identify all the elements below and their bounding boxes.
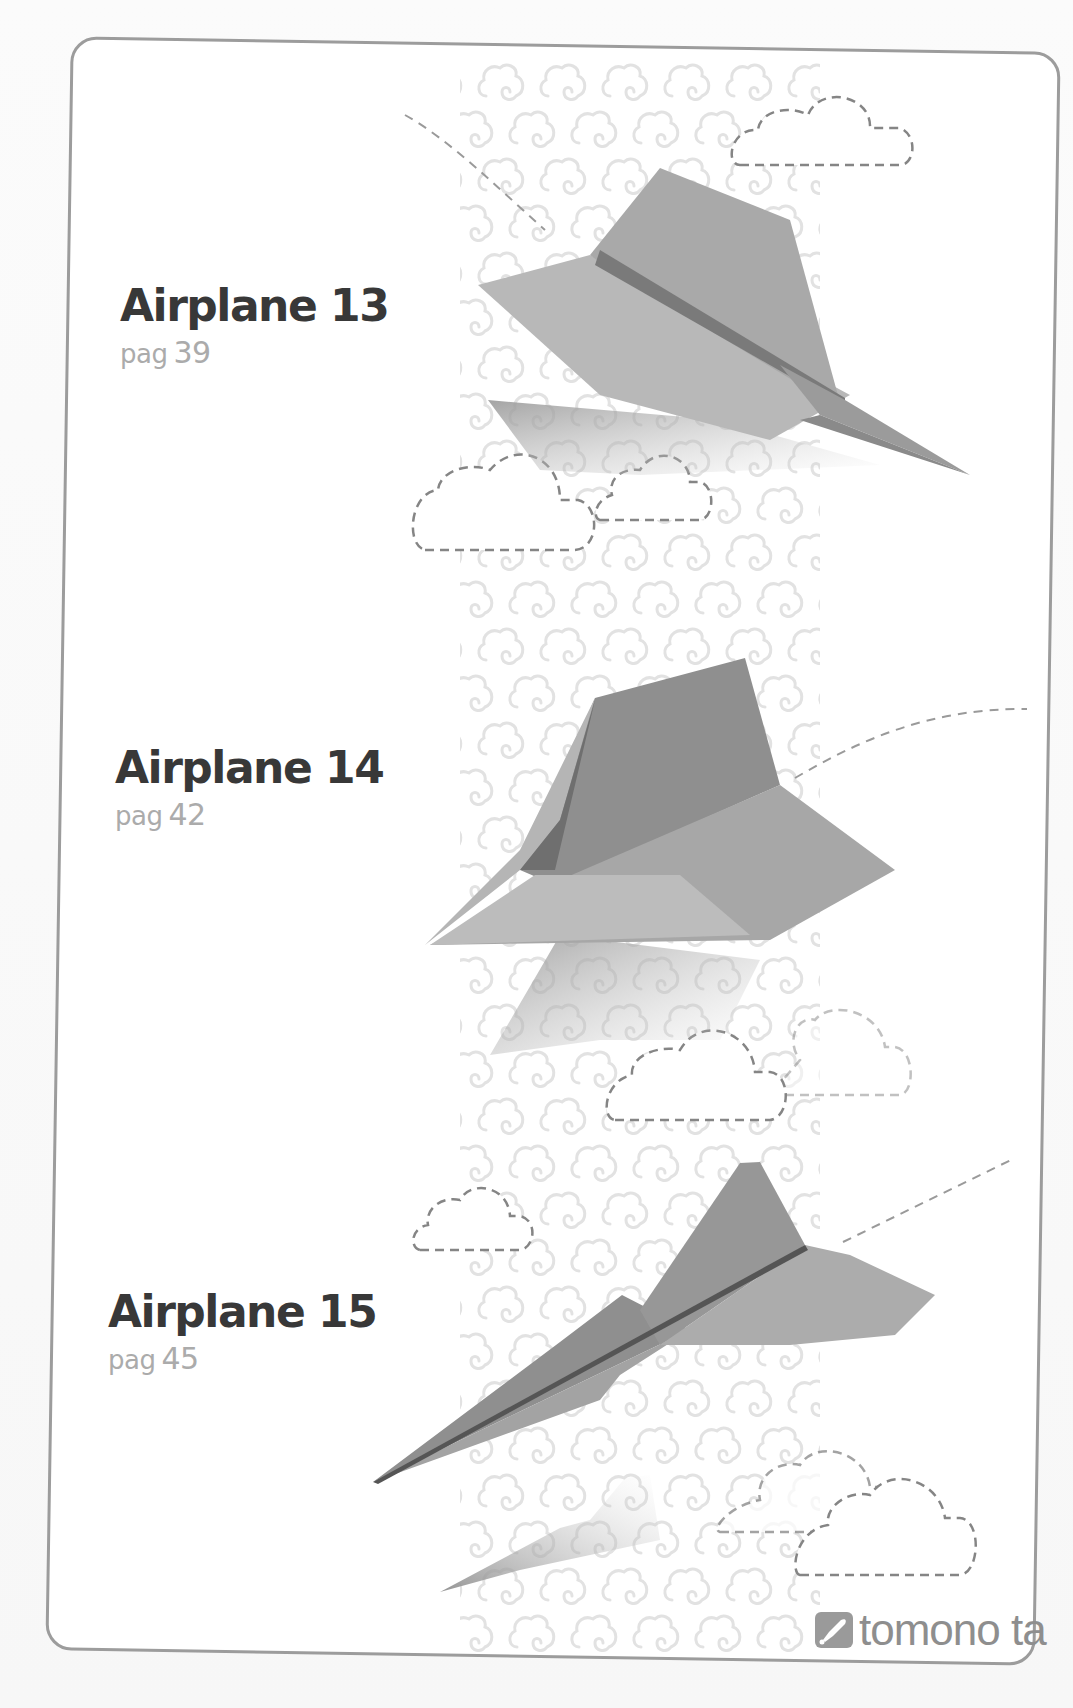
entry-page-ref: pag45: [108, 1344, 376, 1374]
entry-page-ref: pag42: [115, 800, 383, 830]
entry-title: Airplane 13: [120, 284, 388, 328]
brand-name: tomono ta: [859, 1608, 1046, 1652]
page-number: 39: [173, 335, 210, 370]
trail-airplane-14: [795, 709, 1027, 778]
rocket-logo-icon: [815, 1612, 853, 1648]
illustration-layer: [0, 0, 1073, 1708]
entry-airplane-15: Airplane 15 pag45: [108, 1290, 376, 1374]
entry-airplane-14: Airplane 14 pag42: [115, 746, 383, 830]
page-prefix: pag: [115, 801, 162, 831]
entry-title: Airplane 14: [115, 746, 383, 790]
brand-logo: tomono ta: [815, 1608, 1046, 1652]
page-prefix: pag: [108, 1345, 155, 1375]
trail-airplane-15: [843, 1158, 1015, 1242]
catalog-page: Airplane 13 pag39 Airplane 14 pag42 Airp…: [0, 0, 1073, 1708]
entry-title: Airplane 15: [108, 1290, 376, 1334]
page-prefix: pag: [120, 339, 167, 369]
entry-page-ref: pag39: [120, 338, 388, 368]
entry-airplane-13: Airplane 13 pag39: [120, 284, 388, 368]
page-number: 45: [161, 1341, 198, 1376]
page-number: 42: [168, 797, 205, 832]
